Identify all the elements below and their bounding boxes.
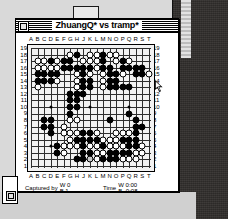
column-label-F: F bbox=[61, 36, 67, 43]
column-label-Q: Q bbox=[126, 173, 132, 180]
row-label-13: 13 bbox=[20, 84, 27, 90]
captured-label: Captured by bbox=[25, 185, 58, 192]
black-stone[interactable] bbox=[139, 71, 146, 78]
window-body: ABCDEFGHJKLMNOPQRST ABCDEFGHJKLMNOPQRST … bbox=[16, 33, 178, 191]
row-labels-left: 19181716151413121110987654321 bbox=[18, 45, 27, 169]
column-label-P: P bbox=[120, 36, 126, 43]
row-label-15: 15 bbox=[20, 71, 27, 77]
desk-panel-lower bbox=[0, 192, 196, 219]
black-stone[interactable] bbox=[54, 71, 61, 78]
row-label-12: 12 bbox=[20, 91, 27, 97]
go-board[interactable] bbox=[27, 44, 155, 172]
go-game-window[interactable]: ZhuangQ* vs tramp* ABCDEFGHJKLMNOPQRST A… bbox=[15, 18, 179, 192]
column-label-J: J bbox=[80, 173, 86, 180]
black-stone[interactable] bbox=[73, 104, 80, 111]
white-stone[interactable] bbox=[73, 117, 80, 124]
white-stone[interactable] bbox=[146, 71, 153, 78]
column-label-L: L bbox=[93, 36, 99, 43]
black-stone[interactable] bbox=[139, 123, 146, 130]
row-label-18: 18 bbox=[20, 52, 27, 58]
column-label-A: A bbox=[28, 173, 34, 180]
black-stone[interactable] bbox=[80, 90, 87, 97]
white-stone[interactable] bbox=[139, 149, 146, 156]
column-labels-top: ABCDEFGHJKLMNOPQRST bbox=[28, 35, 152, 44]
black-stone[interactable] bbox=[106, 117, 113, 124]
black-stone[interactable] bbox=[80, 156, 87, 163]
column-label-G: G bbox=[67, 173, 73, 180]
captured-black-value: B 1 bbox=[60, 188, 71, 194]
black-stone[interactable] bbox=[47, 58, 54, 65]
column-label-S: S bbox=[139, 36, 145, 43]
black-stone[interactable] bbox=[87, 149, 94, 156]
column-label-N: N bbox=[107, 173, 113, 180]
column-label-K: K bbox=[87, 36, 93, 43]
window-title-text: ZhuangQ* vs tramp* bbox=[52, 20, 143, 31]
column-label-M: M bbox=[100, 36, 106, 43]
black-stone[interactable] bbox=[113, 156, 120, 163]
column-label-C: C bbox=[41, 173, 47, 180]
window-titlebar[interactable]: ZhuangQ* vs tramp* bbox=[16, 19, 178, 33]
captured-info: Captured by W 0 B 1 bbox=[25, 182, 70, 194]
white-stone[interactable] bbox=[60, 149, 67, 156]
row-label-10: 10 bbox=[20, 104, 27, 110]
column-label-A: A bbox=[28, 36, 34, 43]
time-info: Time W 0:00 B -0:08 bbox=[103, 182, 137, 194]
row-label-14: 14 bbox=[20, 78, 27, 84]
column-label-N: N bbox=[107, 36, 113, 43]
column-label-H: H bbox=[74, 36, 80, 43]
black-stone[interactable] bbox=[113, 84, 120, 91]
column-label-D: D bbox=[48, 173, 54, 180]
white-stone[interactable] bbox=[132, 156, 139, 163]
white-stone[interactable] bbox=[34, 84, 41, 91]
column-label-R: R bbox=[133, 173, 139, 180]
column-label-T: T bbox=[146, 173, 152, 180]
time-black-value: B -0:08 bbox=[118, 188, 137, 194]
column-label-C: C bbox=[41, 36, 47, 43]
column-label-S: S bbox=[139, 173, 145, 180]
stones-layer[interactable] bbox=[28, 45, 154, 171]
column-label-D: D bbox=[48, 36, 54, 43]
column-label-K: K bbox=[87, 173, 93, 180]
column-label-O: O bbox=[113, 173, 119, 180]
row-label-17: 17 bbox=[20, 58, 27, 64]
row-label-16: 16 bbox=[20, 65, 27, 71]
black-stone[interactable] bbox=[126, 149, 133, 156]
desktop-mini-window[interactable] bbox=[2, 176, 18, 204]
column-label-R: R bbox=[133, 36, 139, 43]
black-stone[interactable] bbox=[87, 84, 94, 91]
black-stone[interactable] bbox=[132, 143, 139, 150]
arrow-cursor bbox=[155, 80, 164, 93]
column-label-P: P bbox=[120, 173, 126, 180]
column-label-M: M bbox=[100, 173, 106, 180]
black-stone[interactable] bbox=[47, 77, 54, 84]
black-stone[interactable] bbox=[73, 51, 80, 58]
column-label-B: B bbox=[35, 36, 41, 43]
column-label-O: O bbox=[113, 36, 119, 43]
status-footer: Captured by W 0 B 1 Time W 0:00 B -0:08 bbox=[16, 180, 178, 196]
column-label-L: L bbox=[93, 173, 99, 180]
column-label-E: E bbox=[54, 173, 60, 180]
black-stone[interactable] bbox=[67, 110, 74, 117]
column-label-G: G bbox=[67, 36, 73, 43]
black-stone[interactable] bbox=[54, 149, 61, 156]
screen: ZhuangQ* vs tramp* ABCDEFGHJKLMNOPQRST A… bbox=[0, 0, 228, 219]
desk-edge-right bbox=[181, 0, 191, 58]
black-stone[interactable] bbox=[67, 64, 74, 71]
column-label-J: J bbox=[80, 36, 86, 43]
column-label-Q: Q bbox=[126, 36, 132, 43]
white-stone[interactable] bbox=[119, 71, 126, 78]
time-label: Time bbox=[103, 185, 116, 192]
column-label-B: B bbox=[35, 173, 41, 180]
black-stone[interactable] bbox=[87, 64, 94, 71]
white-stone[interactable] bbox=[54, 77, 61, 84]
window-title: ZhuangQ* vs tramp* bbox=[16, 19, 178, 32]
black-stone[interactable] bbox=[93, 136, 100, 143]
black-stone[interactable] bbox=[126, 110, 133, 117]
black-stone[interactable] bbox=[47, 130, 54, 137]
row-label-19: 19 bbox=[20, 45, 27, 51]
black-stone[interactable] bbox=[126, 84, 133, 91]
column-label-E: E bbox=[54, 36, 60, 43]
black-stone[interactable] bbox=[100, 143, 107, 150]
column-label-H: H bbox=[74, 173, 80, 180]
resize-knob-icon[interactable] bbox=[6, 191, 16, 201]
